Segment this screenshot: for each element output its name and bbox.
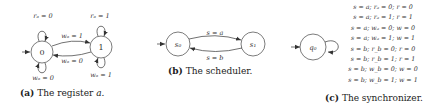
transition-label-wa1: wₐ = 1 <box>61 32 83 40</box>
scheduler-automaton: s₀ s₁ s = a s = b <box>157 29 265 62</box>
state-1-label: 1 <box>98 43 103 52</box>
caption-text: The synchronizer. <box>342 93 423 103</box>
loop-label-ra0: rₐ = 0 <box>33 12 52 20</box>
loop-label-ra1: rₐ = 1 <box>90 12 109 20</box>
transition-0-to-1 <box>52 41 90 46</box>
caption-tag: (b) <box>168 66 183 76</box>
register-automaton: 0 1 wₐ = 1 wₐ = 0 rₐ = 0 wₐ = 0 rₐ = 1 w… <box>22 12 112 82</box>
self-loop-0-top <box>38 31 46 41</box>
loop-label: s = a; wₐ = 0; w = 0 <box>336 23 430 33</box>
transition-label-sa: s = a <box>207 29 224 37</box>
self-loop-0-bottom <box>38 63 46 73</box>
loop-label: s = a; wₐ = 1; w = 1 <box>336 33 430 43</box>
loop-label: s = b; w_b = 0; w = 0 <box>336 64 430 74</box>
synchronizer-loop-labels: s = a; rₐ = 0; r = 0 s = a; rₐ = 1; r = … <box>336 2 430 85</box>
transition-label-wa0: wₐ = 0 <box>61 57 83 65</box>
transition-s1-to-s0 <box>190 48 242 52</box>
caption-scheduler: (b) The scheduler. <box>168 66 252 76</box>
caption-synchronizer: (c) The synchronizer. <box>325 93 423 103</box>
caption-register: (a) The register a. <box>20 88 104 98</box>
caption-var: a. <box>96 88 104 98</box>
state-0-label: 0 <box>39 48 44 57</box>
self-loop-1-top <box>97 26 105 36</box>
loop-label-wa1: wₐ = 1 <box>90 71 112 79</box>
caption-tag: (c) <box>325 93 339 103</box>
state-q0-label: q₀ <box>309 44 316 52</box>
loop-label: s = b; r_b = 1; r = 1 <box>336 54 430 64</box>
self-loop-1-bottom <box>97 58 105 68</box>
state-s0-label: s₀ <box>175 41 182 49</box>
synchronizer-automaton: q₀ <box>291 34 338 60</box>
state-s1-label: s₁ <box>250 41 257 49</box>
loop-label: s = a; rₐ = 1; r = 1 <box>336 12 430 22</box>
caption-tag: (a) <box>20 88 34 98</box>
loop-label: s = b; w_b = 1; w = 1 <box>336 75 430 85</box>
transition-1-to-0 <box>53 52 91 56</box>
transition-label-sb: s = b <box>206 54 223 62</box>
loop-label-wa0: wₐ = 0 <box>32 74 54 82</box>
caption-text: The register <box>37 88 96 98</box>
caption-text: The scheduler. <box>186 66 253 76</box>
loop-label: s = b; r_b = 0; r = 0 <box>336 44 430 54</box>
loop-label: s = a; rₐ = 0; r = 0 <box>336 2 430 12</box>
